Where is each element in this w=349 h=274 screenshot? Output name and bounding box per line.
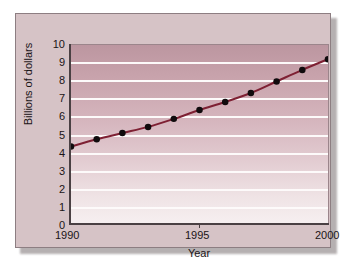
y-axis-tick-label: 5 [41, 130, 65, 141]
y-axis-tick-label: 6 [41, 111, 65, 122]
y-axis-tick-label: 3 [41, 166, 65, 177]
x-axis-tick-label: 1990 [55, 229, 79, 241]
y-axis-tick-label: 4 [41, 148, 65, 159]
x-axis-tick-labels: 199019952000 [16, 229, 332, 243]
y-axis-tick-label: 2 [41, 184, 65, 195]
x-axis-title: Year [69, 247, 329, 259]
data-point-marker: 1999: 8.6 [299, 67, 306, 73]
data-point-marker: 1998: 7.95 [273, 78, 280, 84]
series-line [71, 59, 328, 146]
data-point-marker: 1997: 7.3 [248, 90, 255, 96]
y-axis-tick-labels: 109876543210 [40, 44, 65, 225]
data-series-line: 1990: 4.31991: 4.71992: 5.051993: 5.4199… [71, 45, 328, 223]
y-axis-tick-label: 10 [41, 39, 65, 50]
data-point-marker: 1993: 5.4 [145, 124, 152, 130]
x-axis-tick-mark [199, 223, 200, 228]
data-point-marker: 1991: 4.7 [93, 136, 100, 142]
data-point-marker: 1994: 5.85 [171, 116, 178, 122]
data-point-marker: 1995: 6.35 [196, 107, 203, 113]
y-axis-tick-label: 8 [41, 75, 65, 86]
data-point-marker: 1992: 5.05 [119, 130, 126, 136]
y-axis-tick-label: 7 [41, 93, 65, 104]
plot-frame: 1990: 4.31991: 4.71992: 5.051993: 5.4199… [69, 44, 329, 225]
y-axis-title: Billions of dollars [22, 25, 34, 143]
chart-figure: Billions of dollars 109876543210 1990: 4… [0, 0, 349, 274]
plot-area: 1990: 4.31991: 4.71992: 5.051993: 5.4199… [71, 44, 329, 223]
data-point-marker: 2000: 9.2 [325, 56, 329, 62]
chart-card: Billions of dollars 109876543210 1990: 4… [15, 13, 331, 248]
data-point-marker: 1996: 6.8 [222, 99, 229, 105]
y-axis-tick-label: 9 [41, 57, 65, 68]
x-axis-tick-label: 2000 [315, 229, 339, 241]
data-point-marker: 1990: 4.3 [71, 143, 74, 149]
y-axis-tick-label: 1 [41, 202, 65, 213]
x-axis-tick-label: 1995 [185, 229, 209, 241]
